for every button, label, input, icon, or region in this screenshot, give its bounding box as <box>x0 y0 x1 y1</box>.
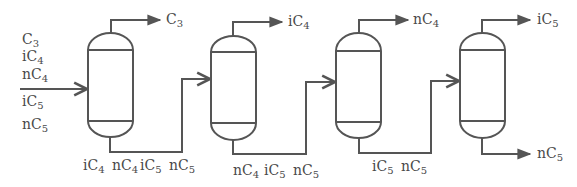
col2-bottoms-label-nc5: nC5 <box>293 163 319 180</box>
column-3 <box>336 33 381 138</box>
col3-overhead-label: nC4 <box>413 12 439 29</box>
feed-label-nc5: nC5 <box>22 117 48 134</box>
col2-overhead-stream <box>233 22 282 36</box>
feed-label-c3: C3 <box>22 32 39 49</box>
col1-overhead-stream <box>111 20 160 33</box>
col3-bottoms-label-nc5: nC5 <box>401 159 427 176</box>
column-4 <box>460 33 505 138</box>
col2-bottoms-stream <box>233 82 335 154</box>
column-1 <box>88 33 133 137</box>
col2-overhead-label: iC4 <box>288 14 310 31</box>
col1-bottoms-label-nc4: nC4 <box>112 158 138 175</box>
feed-label-ic5: iC5 <box>22 94 44 111</box>
col2-bottoms-label-ic5: iC5 <box>264 163 286 180</box>
col1-bottoms-label-ic5: iC5 <box>140 158 162 175</box>
col3-bottoms-stream <box>359 81 459 153</box>
col1-bottoms-label-ic4: iC4 <box>83 158 105 175</box>
col4-bottoms-stream <box>482 138 530 154</box>
col2-bottoms-label-nc4: nC4 <box>233 163 259 180</box>
col4-bottoms-label: nC5 <box>537 146 563 163</box>
feed-label-ic4: iC4 <box>22 49 44 66</box>
col4-overhead-stream <box>482 20 530 33</box>
col4-overhead-label: iC5 <box>537 12 559 29</box>
column-2 <box>211 36 256 140</box>
col1-overhead-label: C3 <box>166 12 183 29</box>
col3-overhead-stream <box>359 20 408 33</box>
col1-bottoms-stream <box>110 79 210 152</box>
col1-bottoms-label-nc5: nC5 <box>169 158 195 175</box>
col3-bottoms-label-ic5: iC5 <box>372 159 394 176</box>
feed-label-nc4: nC4 <box>22 67 48 84</box>
